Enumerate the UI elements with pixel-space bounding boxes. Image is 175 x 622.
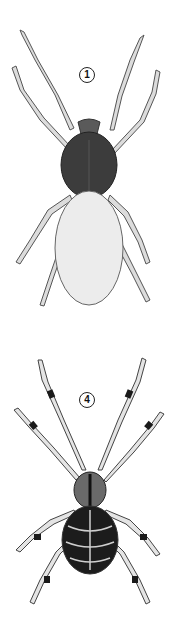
specimen-1-plate: 1: [0, 0, 175, 330]
specimen-label-4: 4: [79, 392, 95, 408]
specimen-label-1: 1: [79, 67, 95, 83]
spider-4-illustration: [0, 330, 175, 622]
spider-1-illustration: [0, 0, 175, 330]
specimen-4-plate: 4: [0, 330, 175, 622]
